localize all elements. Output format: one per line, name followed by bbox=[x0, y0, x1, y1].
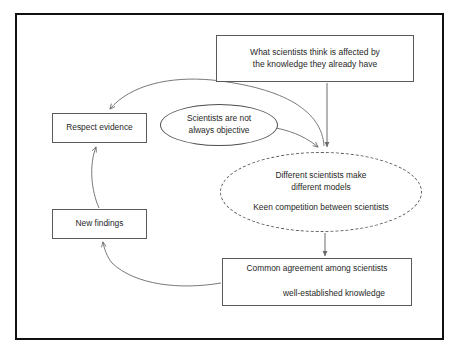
node-common-agreement-label-secondary: well-established knowledge bbox=[223, 288, 411, 300]
flowchart-diagram: What scientists think is affected by the… bbox=[0, 0, 459, 356]
node-scientists-not-objective-label: Scientists are not always objective bbox=[187, 113, 251, 136]
node-knowledge-affects-label: What scientists think is affected by the… bbox=[250, 47, 380, 70]
node-respect-evidence[interactable]: Respect evidence bbox=[52, 113, 147, 143]
node-respect-evidence-label: Respect evidence bbox=[66, 122, 133, 134]
node-common-agreement[interactable]: Common agreement among scientists well-e… bbox=[222, 258, 412, 306]
node-different-models-label-primary: Different scientists make different mode… bbox=[275, 170, 366, 193]
node-new-findings[interactable]: New findings bbox=[52, 209, 147, 239]
node-knowledge-affects[interactable]: What scientists think is affected by the… bbox=[216, 35, 414, 82]
node-different-models[interactable]: Different scientists make different mode… bbox=[220, 152, 422, 232]
node-new-findings-label: New findings bbox=[76, 218, 124, 230]
node-scientists-not-objective[interactable]: Scientists are not always objective bbox=[160, 104, 278, 146]
node-common-agreement-label-primary: Common agreement among scientists bbox=[223, 263, 411, 275]
node-different-models-label-secondary: Keen competition between scientists bbox=[253, 202, 388, 214]
